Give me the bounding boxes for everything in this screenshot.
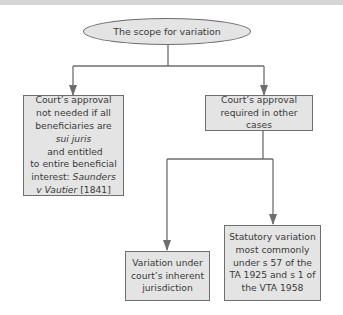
text-fragment: and entitled xyxy=(44,146,102,157)
text-line: not needed if all xyxy=(27,107,120,120)
arrowhead-icon xyxy=(269,214,277,225)
case-name: v Vautier xyxy=(36,184,77,195)
node-statutory-variation: Statutory variation most commonly under … xyxy=(224,225,321,301)
case-year: [1841] xyxy=(77,184,110,195)
text-line: Court’s approval xyxy=(27,94,120,107)
node-text: Court’s approval not needed if all benef… xyxy=(27,94,120,196)
node-label: Court’s approval required in other cases xyxy=(209,94,309,132)
node-label: Variation under court’s inherent jurisdi… xyxy=(131,257,204,295)
text-fragment: interest: xyxy=(31,171,72,182)
arrowhead-icon xyxy=(163,240,171,251)
text-line: to entire beneficial xyxy=(27,158,120,171)
node-court-approval-required: Court’s approval required in other cases xyxy=(205,95,313,131)
latin-term: sui juris xyxy=(56,133,92,144)
node-inherent-jurisdiction: Variation under court’s inherent jurisdi… xyxy=(125,251,210,301)
text-line: interest: Saunders xyxy=(27,171,120,184)
text-line: beneficiaries are xyxy=(27,120,120,133)
root-node-scope-for-variation: The scope for variation xyxy=(83,18,251,45)
root-node-label: The scope for variation xyxy=(113,26,220,37)
text-line: v Vautier [1841] xyxy=(27,184,120,197)
node-court-approval-not-needed: Court’s approval not needed if all benef… xyxy=(23,95,124,196)
case-name: Saunders xyxy=(73,171,116,182)
node-label: Statutory variation most commonly under … xyxy=(229,231,315,295)
text-line: sui juris and entitled xyxy=(27,133,120,159)
